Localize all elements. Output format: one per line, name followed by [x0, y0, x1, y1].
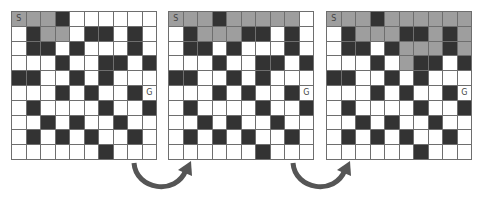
- wall-cell: [56, 130, 70, 144]
- open-cell: [169, 145, 183, 159]
- open-cell: [70, 101, 84, 115]
- visited-cell: [227, 27, 241, 41]
- wall-cell: [27, 71, 41, 85]
- open-cell: [400, 71, 414, 85]
- open-cell: [342, 145, 356, 159]
- start-cell: S: [327, 12, 341, 26]
- wall-cell: [285, 42, 299, 56]
- wall-cell: [85, 86, 99, 100]
- open-cell: [371, 71, 385, 85]
- open-cell: [114, 130, 128, 144]
- open-cell: [169, 42, 183, 56]
- wall-cell: [227, 71, 241, 85]
- wall-cell: [356, 116, 370, 130]
- open-cell: [356, 101, 370, 115]
- wall-cell: [56, 56, 70, 70]
- wall-cell: [169, 71, 183, 85]
- open-cell: [227, 56, 241, 70]
- open-cell: [371, 101, 385, 115]
- open-cell: [85, 42, 99, 56]
- open-cell: [356, 71, 370, 85]
- wall-cell: [342, 101, 356, 115]
- open-cell: [85, 12, 99, 26]
- open-cell: [414, 86, 428, 100]
- open-cell: [458, 145, 472, 159]
- open-cell: [285, 116, 299, 130]
- visited-cell: [213, 27, 227, 41]
- open-cell: [429, 145, 443, 159]
- open-cell: [300, 130, 314, 144]
- wall-cell: [143, 101, 157, 115]
- open-cell: [56, 116, 70, 130]
- open-cell: [285, 101, 299, 115]
- open-cell: [56, 145, 70, 159]
- open-cell: [371, 42, 385, 56]
- open-cell: [198, 71, 212, 85]
- wall-cell: [300, 56, 314, 70]
- open-cell: [41, 130, 55, 144]
- maze-grid-step-1: SG: [11, 11, 157, 160]
- open-cell: [300, 145, 314, 159]
- wall-cell: [300, 101, 314, 115]
- open-cell: [414, 116, 428, 130]
- visited-cell: [458, 12, 472, 26]
- goal-cell: G: [300, 86, 314, 100]
- open-cell: [56, 42, 70, 56]
- wall-cell: [385, 116, 399, 130]
- open-cell: [169, 116, 183, 130]
- open-cell: [169, 130, 183, 144]
- open-cell: [429, 86, 443, 100]
- open-cell: [128, 101, 142, 115]
- wall-cell: [99, 145, 113, 159]
- wall-cell: [400, 86, 414, 100]
- wall-cell: [256, 27, 270, 41]
- wall-cell: [184, 27, 198, 41]
- open-cell: [443, 116, 457, 130]
- open-cell: [85, 116, 99, 130]
- open-cell: [114, 101, 128, 115]
- open-cell: [128, 56, 142, 70]
- open-cell: [99, 86, 113, 100]
- open-cell: [99, 12, 113, 26]
- wall-cell: [242, 27, 256, 41]
- open-cell: [114, 27, 128, 41]
- open-cell: [12, 130, 26, 144]
- open-cell: [70, 86, 84, 100]
- open-cell: [327, 116, 341, 130]
- open-cell: [27, 145, 41, 159]
- open-cell: [198, 86, 212, 100]
- visited-cell: [385, 27, 399, 41]
- wall-cell: [184, 42, 198, 56]
- open-cell: [242, 145, 256, 159]
- open-cell: [12, 116, 26, 130]
- open-cell: [327, 42, 341, 56]
- open-cell: [300, 42, 314, 56]
- wall-cell: [184, 101, 198, 115]
- wall-cell: [414, 71, 428, 85]
- wall-cell: [443, 86, 457, 100]
- open-cell: [458, 71, 472, 85]
- wall-cell: [128, 27, 142, 41]
- wall-cell: [41, 116, 55, 130]
- wall-cell: [271, 116, 285, 130]
- open-cell: [128, 12, 142, 26]
- open-cell: [12, 101, 26, 115]
- wall-cell: [458, 56, 472, 70]
- open-cell: [184, 56, 198, 70]
- open-cell: [242, 56, 256, 70]
- visited-cell: [41, 12, 55, 26]
- wall-cell: [99, 56, 113, 70]
- wall-cell: [128, 130, 142, 144]
- open-cell: [198, 130, 212, 144]
- open-cell: [169, 86, 183, 100]
- open-cell: [458, 116, 472, 130]
- open-cell: [213, 101, 227, 115]
- open-cell: [300, 116, 314, 130]
- visited-cell: [227, 12, 241, 26]
- open-cell: [27, 116, 41, 130]
- open-cell: [429, 130, 443, 144]
- visited-cell: [400, 42, 414, 56]
- open-cell: [242, 42, 256, 56]
- wall-cell: [114, 56, 128, 70]
- visited-cell: [414, 12, 428, 26]
